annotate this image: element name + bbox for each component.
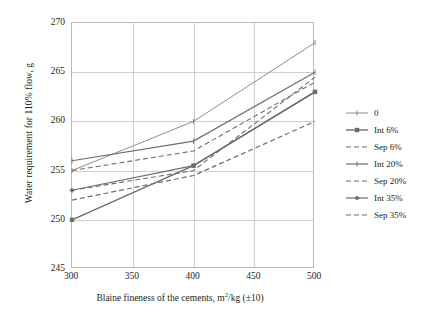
series-line <box>72 82 315 171</box>
legend-item-sep-6[interactable]: Sep 6% <box>345 138 406 155</box>
y-tick-label: 265 <box>31 66 65 76</box>
x-axis-title: Blaine fineness of the cements, m2/kg (±… <box>0 291 360 303</box>
legend-item-sep-20[interactable]: Sep 20% <box>345 172 406 189</box>
series-sep-6 <box>72 121 315 200</box>
series-line <box>72 72 315 161</box>
x-tick-label: 500 <box>294 271 334 281</box>
legend-label: Int 35% <box>374 193 403 203</box>
y-tick-label: 255 <box>31 165 65 175</box>
series-line <box>72 77 315 190</box>
legend-label: Sep 35% <box>374 210 406 220</box>
chart-figure: Water requirement for 110% flow, g 27026… <box>0 0 431 321</box>
series-int-20 <box>72 70 315 164</box>
series-0 <box>72 40 315 173</box>
legend-swatch-icon <box>345 176 369 186</box>
x-tick-label: 350 <box>112 271 152 281</box>
legend-label: 0 <box>374 108 379 118</box>
y-tick-label: 270 <box>31 17 65 27</box>
legend-swatch-icon <box>345 193 369 203</box>
legend-item-0[interactable]: 0 <box>345 104 406 121</box>
legend-swatch-icon <box>345 142 369 152</box>
data-point-marker <box>70 218 74 222</box>
legend-label: Int 20% <box>374 159 403 169</box>
series-line <box>72 121 315 200</box>
legend-item-sep-35[interactable]: Sep 35% <box>345 206 406 223</box>
legend-swatch-icon <box>345 159 369 169</box>
legend-item-int-6[interactable]: Int 6% <box>345 121 406 138</box>
y-tick-label: 260 <box>31 115 65 125</box>
data-point-marker <box>355 127 359 131</box>
series-lines <box>72 23 315 269</box>
x-axis-tick-labels: 300350400450500 <box>0 271 431 287</box>
x-tick-label: 400 <box>173 271 213 281</box>
y-tick-label: 250 <box>31 214 65 224</box>
legend-label: Sep 6% <box>374 142 402 152</box>
legend-label: Sep 20% <box>374 176 406 186</box>
legend: 0Int 6%Sep 6%Int 20%Sep 20%Int 35%Sep 35… <box>345 104 406 223</box>
series-sep-35 <box>72 77 315 190</box>
legend-item-int-20[interactable]: Int 20% <box>345 155 406 172</box>
data-point-marker <box>354 195 359 200</box>
legend-item-int-35[interactable]: Int 35% <box>345 189 406 206</box>
x-tick-label: 450 <box>233 271 273 281</box>
legend-label: Int 6% <box>374 125 398 135</box>
series-sep-20 <box>72 82 315 171</box>
legend-swatch-icon <box>345 108 369 118</box>
x-tick-label: 300 <box>51 271 91 281</box>
legend-swatch-icon <box>345 125 369 135</box>
legend-swatch-icon <box>345 210 369 220</box>
series-int-6 <box>70 90 317 222</box>
plot-area <box>71 22 314 268</box>
